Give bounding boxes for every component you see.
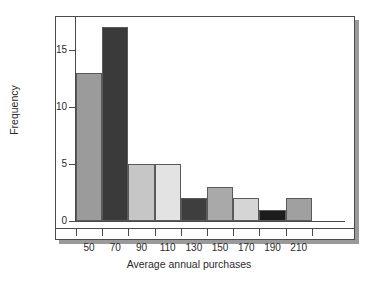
x-axis-tick-label: 110 bbox=[160, 242, 176, 253]
y-axis-tick bbox=[69, 50, 76, 51]
x-axis-tick bbox=[207, 228, 208, 236]
histogram-bar bbox=[181, 198, 207, 221]
x-axis-tick-band bbox=[55, 228, 355, 240]
x-axis-tick-label: 190 bbox=[264, 242, 281, 253]
x-axis-tick bbox=[312, 228, 313, 236]
x-axis-tick bbox=[233, 228, 234, 236]
histogram-bar bbox=[76, 73, 102, 221]
x-axis-tick-label: 130 bbox=[186, 242, 203, 253]
y-axis-tick bbox=[69, 221, 76, 222]
y-axis-tick-label: 0 bbox=[61, 216, 67, 226]
x-axis-tick bbox=[128, 228, 129, 236]
x-axis-tick bbox=[102, 228, 103, 236]
x-axis-tick bbox=[286, 228, 287, 236]
histogram-bar bbox=[155, 164, 181, 221]
y-axis-tick-label: 5 bbox=[61, 159, 67, 169]
y-axis-tick bbox=[69, 107, 76, 108]
histogram-bar bbox=[102, 27, 128, 221]
x-axis-title: Average annual purchases bbox=[0, 258, 378, 270]
x-axis-tick bbox=[181, 228, 182, 236]
y-axis-tick-label: 10 bbox=[56, 102, 67, 112]
x-axis-tick bbox=[259, 228, 260, 236]
x-axis-tick-label: 70 bbox=[110, 242, 121, 253]
x-axis-tick bbox=[76, 228, 77, 236]
x-axis-tick-label: 170 bbox=[238, 242, 255, 253]
y-axis-tick bbox=[69, 164, 76, 165]
histogram-bar bbox=[233, 198, 259, 221]
x-axis-tick-label: 210 bbox=[290, 242, 307, 253]
x-axis-tick-label: 90 bbox=[136, 242, 147, 253]
y-axis-tick-label: 15 bbox=[56, 45, 67, 55]
histogram-bar bbox=[259, 210, 285, 221]
histogram-bar bbox=[128, 164, 154, 221]
x-axis-line bbox=[75, 221, 345, 222]
x-axis-tick-label: 150 bbox=[212, 242, 229, 253]
histogram-bar bbox=[207, 187, 233, 221]
plot-area bbox=[76, 16, 344, 221]
x-axis-tick bbox=[155, 228, 156, 236]
histogram-figure: 051015 507090110130150170190210 Average … bbox=[0, 0, 378, 283]
histogram-bar bbox=[286, 198, 312, 221]
x-axis-tick-label: 50 bbox=[84, 242, 95, 253]
y-axis-title: Frequency bbox=[8, 50, 20, 170]
